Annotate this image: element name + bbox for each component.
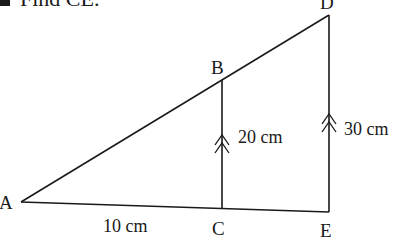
segment-AE	[21, 202, 329, 212]
measurement-DE: 30 cm	[344, 119, 389, 139]
measurement-AC: 10 cm	[103, 216, 148, 236]
label-B: B	[211, 57, 224, 78]
label-C: C	[212, 218, 225, 239]
question-text: Find CE.	[20, 0, 99, 11]
question-marker-icon	[0, 0, 10, 6]
measurement-BC: 20 cm	[238, 127, 283, 147]
segment-AD	[21, 15, 329, 202]
similar-triangles-diagram: Find CE. A B C D E 10 cm 20 cm 30 cm	[0, 0, 410, 251]
label-E: E	[320, 220, 332, 241]
label-D: D	[320, 0, 334, 13]
label-A: A	[0, 192, 13, 213]
